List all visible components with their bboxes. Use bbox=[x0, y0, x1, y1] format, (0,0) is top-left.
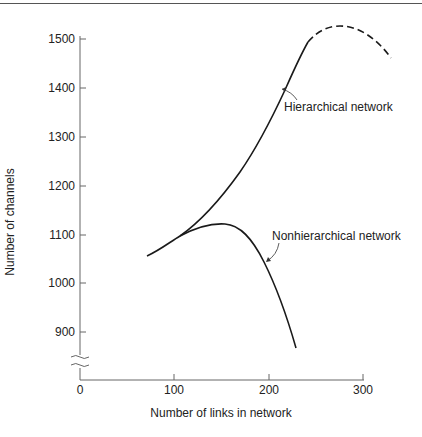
chart: 1500 1400 1300 1200 1100 1000 900 0 100 … bbox=[0, 0, 422, 437]
x-axis-title: Number of links in network bbox=[150, 406, 292, 420]
y-tick-label: 900 bbox=[55, 325, 75, 339]
y-tick-label: 1400 bbox=[48, 81, 75, 95]
x-ticks bbox=[174, 374, 363, 380]
arrowhead-icon bbox=[266, 257, 271, 262]
y-tick-label: 1000 bbox=[48, 276, 75, 290]
hierarchical-curve-dashed bbox=[308, 26, 391, 58]
y-tick-label: 1100 bbox=[49, 228, 75, 242]
x-tick-label: 0 bbox=[77, 383, 84, 397]
x-tick-label: 300 bbox=[353, 383, 373, 397]
axis-break-icon bbox=[71, 356, 89, 367]
x-tick-label: 100 bbox=[164, 383, 184, 397]
y-tick-label: 1300 bbox=[48, 130, 75, 144]
nonhierarchical-label: Nonhierarchical network bbox=[272, 229, 402, 243]
y-axis-title: Number of channels bbox=[3, 168, 17, 275]
y-tick-label: 1200 bbox=[48, 179, 75, 193]
x-tick-label: 200 bbox=[259, 383, 279, 397]
y-tick-label: 1500 bbox=[48, 32, 75, 46]
hierarchical-label: Hierarchical network bbox=[284, 100, 394, 114]
y-ticks bbox=[80, 39, 86, 332]
